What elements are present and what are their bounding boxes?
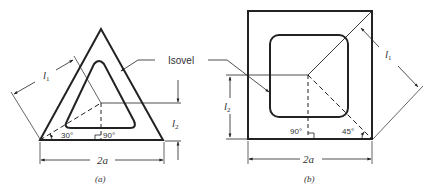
angle-90-label-b: 90°: [290, 127, 302, 136]
l2-label-b: l2: [224, 100, 231, 114]
panel-b-square: l2 90° 45° l1 2a (b): [224, 11, 423, 184]
l1-label-b: l1: [385, 48, 392, 62]
isovel-callout: Isovel: [121, 55, 269, 92]
dashed-diagonal-bottom-right: [308, 75, 372, 139]
outer-triangle: [40, 29, 163, 140]
angle-45-arc: [362, 132, 364, 139]
l1-extension-corner: [11, 92, 40, 139]
isovel-label: Isovel: [168, 55, 194, 66]
l1-arrow-lower: [14, 82, 35, 94]
angle-30-label: 30°: [61, 131, 73, 140]
isovel-leader-b: [208, 60, 269, 92]
l1-arrow-upper-b: [361, 28, 379, 47]
l1-extension-corner-b: [373, 86, 423, 139]
l1-label-a: l1: [43, 69, 50, 83]
panel-a-triangle: l2 90° 30° l1 2a (a): [11, 29, 181, 184]
width-label-b: 2a: [303, 153, 315, 165]
l1-arrow-lower-b: [398, 66, 418, 87]
figure-canvas: l2 90° 30° l1 2a (a) Isovel: [0, 0, 433, 192]
caption-a: (a): [95, 174, 106, 184]
width-label-a: 2a: [97, 154, 109, 166]
caption-b: (b): [304, 174, 315, 184]
isovel-leader-a: [121, 60, 155, 71]
angle-90-label-a: 90°: [103, 131, 115, 140]
diagonal-top-right: [308, 11, 372, 75]
angle-45-label: 45°: [342, 127, 354, 136]
l1-arrow-upper: [56, 60, 73, 70]
l2-label-a: l2: [172, 117, 179, 131]
